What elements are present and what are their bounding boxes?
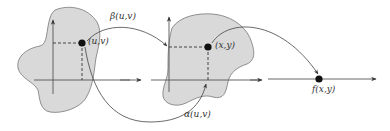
label-uv: (u,v) [88,37,109,46]
label-beta: β(u,v) [110,12,136,21]
panel-uv [18,7,130,112]
point-xy [204,43,211,50]
panel-xy [151,14,260,105]
panel-codomain [268,75,376,82]
point-uv [78,39,85,46]
point-fxy [315,75,322,82]
label-xy: (x,y) [215,41,235,50]
function-composition-diagram: (u,v) (x,y) f(x,y) β(u,v) α(u,v) [0,0,390,131]
label-fxy: f(x,y) [312,85,335,94]
label-alpha: α(u,v) [184,110,211,119]
